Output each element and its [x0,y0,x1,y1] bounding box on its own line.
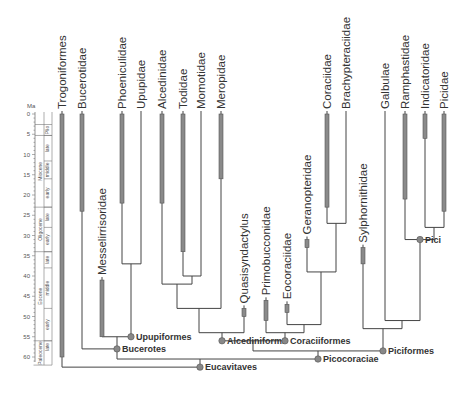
fossil-range-bar [442,114,446,211]
clade-node-marker [315,356,321,362]
taxon-label: Meropidae [215,55,227,109]
subdivision-label: late [44,256,50,264]
tree-branches [62,111,444,367]
epoch-label: Miocene [37,162,43,181]
tick-label: 45 [23,293,30,299]
clade-label: Picocoraciae [323,354,379,364]
subdivision-label: middle [44,162,50,177]
taxon-label: Eocoraciidae [281,233,293,299]
fossil-range-bar [100,280,104,337]
subdivision-label: early [44,187,50,198]
tick-label: 15 [23,172,30,178]
clade-node-marker [197,364,203,370]
taxon-labels: TrogoniformesBucerotidaeMesselirrisorida… [56,17,450,303]
clade-nodes: UpupiformesBucerotesAlcediniform.Coracii… [114,235,441,373]
taxon-label: Indicatoridae [419,43,431,109]
tick-label: 55 [23,334,30,340]
tick-label: 50 [23,314,30,320]
taxon-label: Sylphornithidae [357,163,369,242]
clade-label: Eucavitaves [205,362,257,372]
taxon-label: Picidae [438,71,450,109]
fossil-range-bar [361,248,365,264]
taxon-label: Upupidae [135,60,147,109]
taxon-label: Alcedinidae [156,50,168,109]
fossil-range-bar [80,114,84,211]
taxon-label: Todidae [177,69,189,109]
epoch-label: Plio [44,126,50,135]
fossil-range-bar [219,114,223,179]
taxon-label: Bucerotidae [76,48,88,109]
epoch-label: Oligocene [37,218,43,241]
tick-label: 60 [23,354,30,360]
clade-node-marker [128,334,134,340]
fossil-range-bar [325,114,329,207]
taxon-label: Ramphastidae [399,35,411,109]
fossil-range-bar [242,308,246,316]
clade-node-marker [282,338,288,344]
epoch-label: Paleocene [37,341,43,365]
subdivision-label: late [44,144,50,152]
tick-label: 0 [27,111,31,117]
clade-label: Coraciiformes [290,336,351,346]
subdivision-label: late [44,213,50,221]
tick-label: 10 [23,152,30,158]
taxon-label: Geranopteridae [301,155,313,235]
subdivision-label: early [44,319,50,330]
time-scale: Ma 051015202530354045505560 PlioMioceneO… [23,103,52,365]
taxon-label: Phoeniculidae [116,37,128,109]
clade-label: Bucerotes [122,344,166,354]
taxon-label: Momotidae [195,52,207,109]
clade-label: Piciformes [388,346,434,356]
clade-node-marker [417,236,423,242]
fossil-range-bar [60,114,64,357]
taxon-label: Primobucconidae [260,206,272,295]
tick-label: 30 [23,233,30,239]
tick-label: 5 [27,131,31,137]
clade-node-marker [219,338,225,344]
taxon-label: Trogoniformes [56,35,68,109]
fossil-range-bar [181,114,185,252]
taxon-label: Galbulae [379,63,391,109]
phylogeny-diagram: Ma 051015202530354045505560 PlioMioceneO… [0,0,472,393]
fossil-range-bar [264,300,268,320]
tick-label: 25 [23,212,30,218]
fossil-range-bar [285,304,289,312]
clade-node-marker [380,348,386,354]
epoch-label: Eocene [37,288,43,305]
clade-node-marker [114,346,120,352]
fossil-range-bar [160,114,164,203]
tick-label: 40 [23,273,30,279]
fossil-range-bar [305,240,309,248]
time-axis-unit-label: Ma [27,103,36,109]
stratigraphic-column: PlioMioceneOligoceneEocenePaleocenelatem… [35,112,52,365]
taxon-label: Messelirrisoridae [96,188,108,275]
subdivision-label: early [44,234,50,245]
tick-label: 20 [23,192,30,198]
subdivision-label: middle [44,281,50,296]
fossil-range-bar [423,114,427,138]
taxon-label: Quasisyndactylus [238,213,250,303]
clade-label: Alcediniform. [227,336,285,346]
taxon-label: Coraciidae [321,54,333,109]
time-axis-ticks: 051015202530354045505560 [23,111,35,365]
clade-label: Pici [425,235,441,245]
subdivision-label: late [44,343,50,351]
fossil-range-bar [403,114,407,199]
tick-label: 35 [23,253,30,259]
taxon-label: Brachypteraciidae [340,17,352,109]
clade-label: Upupiformes [136,332,192,342]
fossil-range-bar [120,114,124,203]
